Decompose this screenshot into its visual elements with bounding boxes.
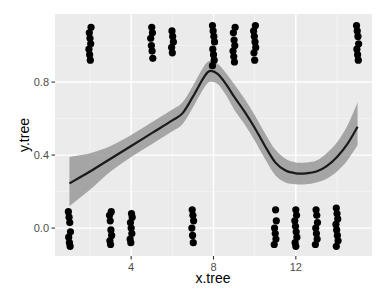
data-point xyxy=(67,243,74,250)
chart-container: 4812 0.00.40.8 x.tree y.tree xyxy=(0,0,389,302)
data-point xyxy=(148,47,155,54)
data-point xyxy=(190,217,197,224)
data-point xyxy=(251,57,258,64)
data-point xyxy=(333,243,340,250)
data-point xyxy=(66,219,73,226)
data-point xyxy=(313,212,320,219)
data-point xyxy=(355,57,362,64)
x-axis-title: x.tree xyxy=(195,270,230,286)
y-tick-label: 0.8 xyxy=(34,76,49,88)
data-point xyxy=(250,49,257,56)
data-point xyxy=(169,49,176,56)
data-point xyxy=(107,241,114,248)
x-tick-label: 12 xyxy=(290,261,302,273)
y-tick-label: 0.0 xyxy=(34,222,49,234)
data-point xyxy=(271,241,278,248)
data-point xyxy=(190,239,197,246)
data-point xyxy=(189,232,196,239)
data-point xyxy=(354,33,361,40)
data-point xyxy=(312,241,319,248)
x-tick-label: 4 xyxy=(128,261,134,273)
data-point xyxy=(209,62,216,69)
y-axis-ticks: 0.00.40.8 xyxy=(34,76,55,234)
data-point xyxy=(188,224,195,231)
data-point xyxy=(147,35,154,42)
data-point xyxy=(292,243,299,250)
scatter-plot: 4812 0.00.40.8 x.tree y.tree xyxy=(0,0,389,302)
data-point xyxy=(87,57,94,64)
y-axis-title: y.tree xyxy=(16,118,32,152)
data-point xyxy=(127,239,134,246)
data-point xyxy=(211,38,218,45)
y-tick-label: 0.4 xyxy=(34,149,49,161)
data-point xyxy=(273,217,280,224)
data-point xyxy=(230,29,237,36)
data-point xyxy=(149,55,156,62)
data-point xyxy=(272,206,279,213)
data-point xyxy=(107,217,114,224)
data-point xyxy=(231,58,238,65)
